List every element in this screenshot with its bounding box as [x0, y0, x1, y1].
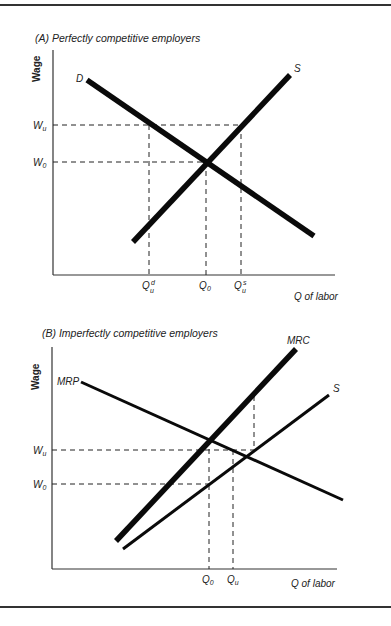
panel-a-tick-w0: W0: [33, 157, 46, 169]
svg-text:u: u: [242, 287, 246, 294]
panel-b-supply-curve: [123, 395, 329, 549]
svg-text:u: u: [150, 287, 154, 294]
svg-text:Q: Q: [234, 280, 242, 291]
panel-b-tick-q0: Q0: [202, 574, 214, 586]
panel-a-demand-curve: [87, 80, 314, 236]
panel-b-mrc-curve: [116, 349, 296, 541]
panel-b-mrc-label: MRC: [287, 335, 311, 346]
panel-b-tick-wu: Wu: [33, 445, 46, 457]
panel-b-title: (B) Imperfectly competitive employers: [42, 327, 218, 339]
panel-b-mrp-label: MRP: [57, 376, 80, 387]
panel-a-y-axis-label: Wage: [31, 55, 42, 82]
panel-a-supply-label: S: [294, 63, 301, 74]
panel-b-tick-w0: W0: [33, 479, 46, 491]
panel-b-y-axis-label: Wage: [30, 363, 41, 390]
svg-text:d: d: [151, 279, 156, 286]
svg-text:0: 0: [207, 285, 211, 292]
panel-a-title: (A) Perfectly competitive employers: [35, 32, 201, 44]
svg-text:Q: Q: [142, 280, 150, 291]
svg-text:Q: Q: [199, 280, 207, 291]
panel-b-tick-qu: Qu: [227, 574, 239, 586]
panel-a-supply-curve: [133, 75, 290, 242]
panel-a-tick-q0: Q 0: [199, 280, 211, 292]
panel-a-x-axis-label: Q of labor: [294, 291, 339, 302]
svg-text:s: s: [243, 279, 247, 286]
panel-a-tick-wu: Wu: [33, 120, 46, 132]
panel-b-x-axis-label: Q of labor: [291, 578, 336, 589]
panel-b: (B) Imperfectly competitive employers Wa…: [30, 327, 343, 589]
panel-a-tick-qus: Q s u: [234, 279, 247, 294]
labor-market-diagram: (A) Perfectly competitive employers Wage…: [0, 0, 391, 626]
panel-a-tick-qud: Q d u: [142, 279, 156, 294]
panel-a-demand-label: D: [76, 73, 83, 84]
panel-b-supply-label: S: [333, 383, 340, 394]
panel-a: (A) Perfectly competitive employers Wage…: [31, 32, 339, 302]
